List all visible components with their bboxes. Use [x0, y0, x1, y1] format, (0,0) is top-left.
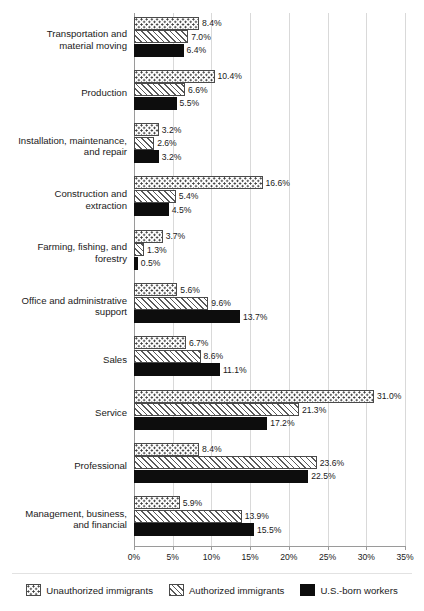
bar-slot: 8.4% [134, 17, 405, 30]
category-group: Farming, fishing, andforestry3.7%1.3%0.5… [134, 226, 405, 279]
category-label-line: forestry [95, 253, 127, 265]
legend-swatch-usborn [300, 584, 315, 596]
bar-slot: 1.3% [134, 243, 405, 256]
bar [134, 496, 180, 509]
bar-slot: 22.5% [134, 470, 405, 483]
bar-slot: 31.0% [134, 390, 405, 403]
bar-slot: 2.6% [134, 137, 405, 150]
bar-value-label: 0.5% [138, 258, 161, 268]
bar-value-label: 5.9% [180, 498, 203, 508]
legend-item[interactable]: U.S.-born workers [300, 584, 397, 596]
bar-slot: 21.3% [134, 403, 405, 416]
bar-slot: 3.7% [134, 230, 405, 243]
bar-slot: 5.6% [134, 283, 405, 296]
legend-item[interactable]: Authorized immigrants [169, 584, 284, 596]
category-label: Sales [0, 333, 127, 386]
category-label: Construction andextraction [0, 173, 127, 226]
category-label-line: Transportation and [47, 28, 127, 40]
bar-slot: 8.6% [134, 350, 405, 363]
bar [134, 243, 144, 256]
bar-value-label: 8.4% [199, 18, 222, 28]
bar-value-label: 13.9% [242, 511, 269, 521]
x-axis-line [134, 546, 405, 547]
bar [134, 297, 208, 310]
category-label-line: support [95, 306, 127, 318]
bar-value-label: 31.0% [374, 391, 401, 401]
bar [134, 123, 159, 136]
bar [134, 150, 159, 163]
bar-value-label: 6.7% [186, 338, 209, 348]
bar-value-label: 8.4% [199, 444, 222, 454]
legend-label: Authorized immigrants [189, 585, 284, 596]
bar-slot: 15.5% [134, 523, 405, 536]
bar [134, 310, 240, 323]
x-tick [289, 546, 290, 550]
category-label-line: and financial [73, 519, 127, 531]
category-label: Installation, maintenance,and repair [0, 120, 127, 173]
bar-slot: 6.4% [134, 44, 405, 57]
bar-value-label: 13.7% [240, 312, 267, 322]
category-label: Transportation andmaterial moving [0, 13, 127, 66]
x-tick [405, 546, 406, 550]
bar-slot: 0.5% [134, 257, 405, 270]
category-group: Professional8.4%23.6%22.5% [134, 439, 405, 492]
bar-value-label: 3.2% [159, 125, 182, 135]
category-label-line: Office and administrative [22, 295, 127, 307]
bar [134, 417, 267, 430]
bar [134, 203, 169, 216]
bar-slot: 9.6% [134, 297, 405, 310]
category-group: Sales6.7%8.6%11.1% [134, 333, 405, 386]
bar-value-label: 23.6% [317, 458, 344, 468]
category-group: Installation, maintenance,and repair3.2%… [134, 120, 405, 173]
x-tick-label: 30% [358, 552, 375, 562]
chart-legend: Unauthorized immigrantsAuthorized immigr… [0, 580, 424, 600]
bar-value-label: 5.5% [177, 98, 200, 108]
bar-slot: 17.2% [134, 417, 405, 430]
bar-value-label: 16.6% [263, 178, 290, 188]
x-tick-label: 5% [166, 552, 178, 562]
category-label-line: Construction and [54, 188, 127, 200]
bar [134, 443, 199, 456]
category-label-line: material moving [59, 40, 127, 52]
bar [134, 390, 374, 403]
bar-value-label: 9.6% [208, 298, 231, 308]
bar-value-label: 10.4% [215, 71, 242, 81]
bar [134, 470, 308, 483]
legend-item[interactable]: Unauthorized immigrants [26, 584, 153, 596]
bar-slot: 7.0% [134, 30, 405, 43]
bar-slot: 5.9% [134, 496, 405, 509]
x-tick [366, 546, 367, 550]
x-tick-label: 0% [128, 552, 140, 562]
category-label: Professional [0, 439, 127, 492]
bar-slot: 13.7% [134, 310, 405, 323]
x-tick-label: 20% [280, 552, 297, 562]
plot-area: Transportation andmaterial moving8.4%7.0… [134, 13, 405, 546]
bar [134, 350, 201, 363]
bar-value-label: 11.1% [220, 365, 247, 375]
bar [134, 456, 317, 469]
x-tick-label: 35% [396, 552, 413, 562]
bar [134, 30, 188, 43]
bar [134, 17, 199, 30]
bar-value-label: 6.6% [185, 85, 208, 95]
x-tick [134, 546, 135, 550]
bar [134, 363, 220, 376]
bar [134, 510, 242, 523]
category-label: Farming, fishing, andforestry [0, 226, 127, 279]
category-label-line: and repair [84, 146, 127, 158]
bar-value-label: 6.4% [184, 45, 207, 55]
legend-swatch-auth [169, 584, 184, 596]
bar [134, 83, 185, 96]
bar-chart: Transportation andmaterial moving8.4%7.0… [0, 0, 424, 611]
bar [134, 97, 177, 110]
bar-slot: 4.5% [134, 203, 405, 216]
bar-slot: 16.6% [134, 176, 405, 189]
category-label-line: Sales [103, 354, 127, 366]
bar-slot: 13.9% [134, 510, 405, 523]
bar-value-label: 5.6% [177, 285, 200, 295]
category-label: Office and administrativesupport [0, 280, 127, 333]
category-group: Transportation andmaterial moving8.4%7.0… [134, 13, 405, 66]
bar-value-label: 21.3% [299, 405, 326, 415]
x-tick-label: 10% [203, 552, 220, 562]
bar-slot: 6.6% [134, 83, 405, 96]
